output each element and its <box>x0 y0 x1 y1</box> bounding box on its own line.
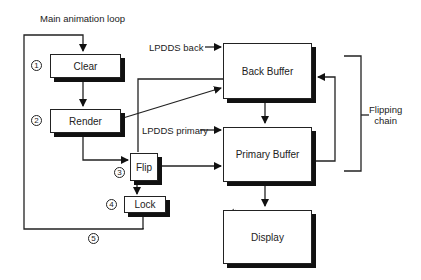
primary-buffer-box: Primary Buffer <box>223 127 312 182</box>
connector-lines <box>0 0 421 280</box>
flip-box: Flip <box>130 153 158 181</box>
step-number-5: 5 <box>88 233 99 244</box>
display-box: Display <box>223 210 312 264</box>
flipping-chain-line2: chain <box>369 115 402 126</box>
step-number-2: 2 <box>31 115 42 126</box>
flipping-chain-line1: Flipping <box>369 104 402 115</box>
back-buffer-box: Back Buffer <box>223 43 312 99</box>
render-box: Render <box>50 109 121 133</box>
lpdds-primary-label: LPDDS primary <box>142 125 208 136</box>
step-number-1: 1 <box>31 60 42 71</box>
lock-box: Lock <box>124 196 166 213</box>
step-number-3: 3 <box>114 167 125 178</box>
diagram-title: Main animation loop <box>40 13 125 24</box>
flipping-chain-label: Flipping chain <box>369 104 402 126</box>
lpdds-back-label: LPDDS back <box>149 42 203 53</box>
step-number-4: 4 <box>106 199 117 210</box>
clear-box: Clear <box>50 54 121 78</box>
